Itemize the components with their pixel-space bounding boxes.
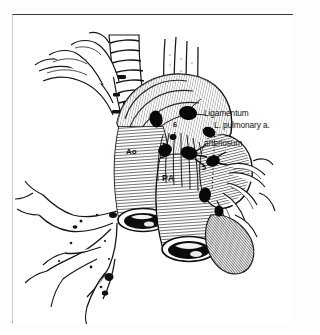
figure-frame: Ligamentum arteriosum L. pulmonary a. Ao… xyxy=(12,14,293,323)
label-ligamentum-line1: Ligamentum xyxy=(204,108,249,118)
label-node-station-5: 5 xyxy=(202,163,206,172)
label-pulmonary-artery: PA xyxy=(162,173,175,183)
anatomical-illustration xyxy=(13,15,294,324)
label-left-pulmonary-artery: L. pulmonary a. xyxy=(214,120,270,130)
label-node-station-6: 6 xyxy=(173,120,177,129)
scanned-page: Ligamentum arteriosum L. pulmonary a. Ao… xyxy=(0,0,320,335)
label-aorta: Ao xyxy=(126,147,136,156)
label-ligamentum-line2: arteriosum xyxy=(204,138,249,148)
